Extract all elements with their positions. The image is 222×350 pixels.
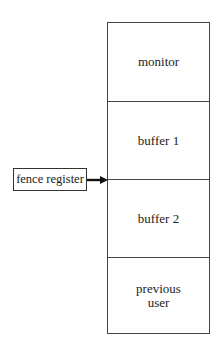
memory-column: monitor buffer 1 buffer 2 previous user bbox=[107, 22, 210, 334]
segment-buffer-2: buffer 2 bbox=[108, 179, 209, 257]
segment-buffer-1: buffer 1 bbox=[108, 101, 209, 179]
segment-previous-user: previous user bbox=[108, 257, 209, 333]
fence-register-box: fence register bbox=[13, 168, 87, 191]
segment-monitor: monitor bbox=[108, 23, 209, 101]
arrow-icon bbox=[86, 174, 110, 186]
